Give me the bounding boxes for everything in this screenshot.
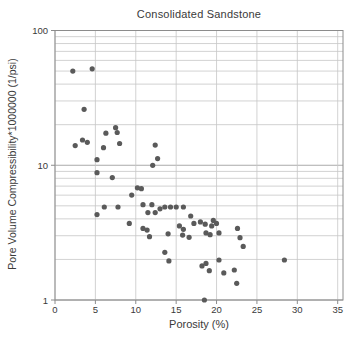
data-point xyxy=(198,219,203,224)
data-point xyxy=(203,261,208,266)
plot-area-svg xyxy=(0,0,363,352)
data-point xyxy=(203,222,208,227)
x-axis-label: Porosity (%) xyxy=(55,318,343,330)
data-point xyxy=(202,297,207,302)
data-point xyxy=(166,231,171,236)
data-point xyxy=(207,268,212,273)
data-point xyxy=(139,186,144,191)
data-point xyxy=(82,107,87,112)
data-point xyxy=(94,157,99,162)
data-point xyxy=(94,212,99,217)
data-point xyxy=(147,234,152,239)
data-point xyxy=(162,204,167,209)
data-point xyxy=(110,175,115,180)
data-point xyxy=(90,66,95,71)
data-point xyxy=(145,210,150,215)
data-point xyxy=(177,223,182,228)
data-point xyxy=(101,145,106,150)
data-point xyxy=(153,210,158,215)
data-point xyxy=(70,69,75,74)
data-point xyxy=(234,281,239,286)
data-point xyxy=(174,204,179,209)
data-point xyxy=(282,257,287,262)
x-tick-label: 0 xyxy=(44,304,66,315)
data-point xyxy=(188,213,193,218)
data-point xyxy=(216,257,221,262)
data-point xyxy=(166,258,171,263)
data-point xyxy=(191,221,196,226)
data-point xyxy=(113,125,118,130)
x-tick-label: 30 xyxy=(286,304,308,315)
data-point xyxy=(208,232,213,237)
data-point xyxy=(157,206,162,211)
data-point xyxy=(73,143,78,148)
data-point xyxy=(115,204,120,209)
data-point xyxy=(168,204,173,209)
data-point xyxy=(162,250,167,255)
y-tick-label: 10 xyxy=(18,160,48,171)
x-tick-label: 5 xyxy=(84,304,106,315)
data-point xyxy=(127,221,132,226)
data-point xyxy=(187,235,192,240)
data-point xyxy=(153,143,158,148)
data-point xyxy=(145,228,150,233)
data-point xyxy=(150,163,155,168)
x-tick-label: 15 xyxy=(165,304,187,315)
data-point xyxy=(149,202,154,207)
y-tick-label: 100 xyxy=(18,25,48,36)
data-point xyxy=(221,270,226,275)
data-point xyxy=(214,221,219,226)
x-tick-label: 10 xyxy=(125,304,147,315)
data-point xyxy=(115,130,120,135)
data-point xyxy=(216,230,221,235)
data-point xyxy=(235,226,240,231)
data-point xyxy=(140,202,145,207)
scatter-chart: Consolidated Sandstone Pore Volume Compr… xyxy=(0,0,363,352)
x-tick-label: 20 xyxy=(206,304,228,315)
data-point xyxy=(102,204,107,209)
data-point xyxy=(180,233,185,238)
data-point xyxy=(237,235,242,240)
data-point xyxy=(232,267,237,272)
data-point xyxy=(241,244,246,249)
data-point xyxy=(155,156,160,161)
data-point xyxy=(80,137,85,142)
data-point xyxy=(129,193,134,198)
y-tick-label: 1 xyxy=(18,295,48,306)
data-point xyxy=(103,131,108,136)
data-point xyxy=(209,223,214,228)
data-point xyxy=(117,141,122,146)
data-point xyxy=(181,204,186,209)
data-point xyxy=(85,140,90,145)
x-tick-label: 35 xyxy=(327,304,349,315)
x-tick-label: 25 xyxy=(246,304,268,315)
data-point xyxy=(181,227,186,232)
data-point xyxy=(94,170,99,175)
